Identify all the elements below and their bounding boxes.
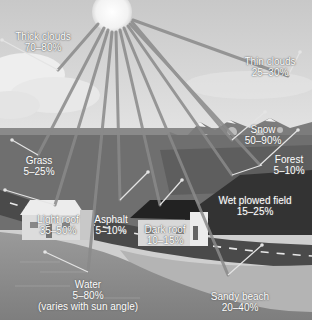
- label-value: 50–90%: [245, 135, 282, 146]
- label-grass: Grass 5–25%: [23, 155, 54, 177]
- label-name: Snow: [245, 124, 282, 135]
- label-name: Thin clouds: [244, 56, 295, 67]
- label-asphalt: Asphalt 5–10%: [94, 214, 127, 236]
- label-light-roof: Light roof 35–50%: [37, 214, 79, 236]
- label-water: Water 5–80% (varies with sun angle): [38, 279, 138, 312]
- label-value: 20–40%: [211, 302, 269, 313]
- label-name: Grass: [23, 155, 54, 166]
- label-sandy-beach: Sandy beach 20–40%: [211, 291, 269, 313]
- label-name: Sandy beach: [211, 291, 269, 302]
- label-wet-plowed-field: Wet plowed field 15–25%: [218, 195, 291, 217]
- label-thin-clouds: Thin clouds 25–30%: [244, 56, 295, 78]
- label-value: 5–10%: [94, 225, 127, 236]
- label-value: 5–80%: [38, 290, 138, 301]
- label-name: Thick clouds: [15, 31, 71, 42]
- label-name: Wet plowed field: [218, 195, 291, 206]
- label-name: Light roof: [37, 214, 79, 225]
- label-value: 15–25%: [218, 206, 291, 217]
- albedo-diagram: Thick clouds 70–80% Thin clouds 25–30% S…: [0, 0, 312, 320]
- label-thick-clouds: Thick clouds 70–80%: [15, 31, 71, 53]
- label-name: Asphalt: [94, 214, 127, 225]
- label-value: 5–10%: [273, 165, 304, 176]
- label-value: 70–80%: [15, 42, 71, 53]
- label-value: 35–50%: [37, 225, 79, 236]
- label-value: 10–15%: [144, 235, 185, 246]
- label-name: Forest: [273, 154, 304, 165]
- label-name: Dark roof: [144, 224, 185, 235]
- label-value: 25–30%: [244, 67, 295, 78]
- label-name: Water: [38, 279, 138, 290]
- label-dark-roof: Dark roof 10–15%: [144, 224, 185, 246]
- label-snow: Snow 50–90%: [245, 124, 282, 146]
- label-note: (varies with sun angle): [38, 301, 138, 312]
- label-value: 5–25%: [23, 166, 54, 177]
- label-forest: Forest 5–10%: [273, 154, 304, 176]
